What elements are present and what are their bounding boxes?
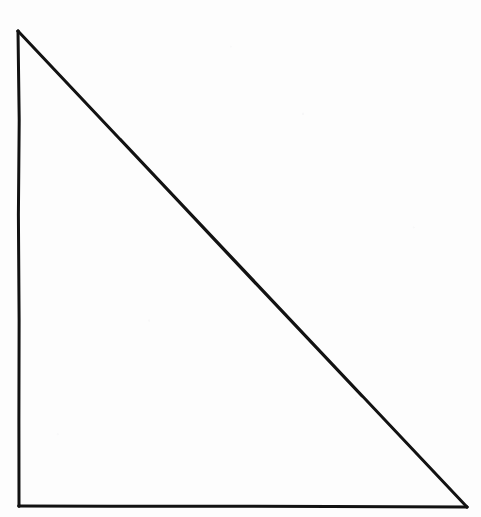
drawing-canvas: Right triangle outline right-triangle li…	[0, 0, 481, 517]
right-triangle-figure	[0, 0, 481, 517]
paper-background	[0, 0, 481, 517]
bottom-right-vertex-mark	[465, 505, 468, 508]
horizontal-leg-edge	[19, 506, 467, 507]
vertical-leg-edge	[18, 31, 19, 506]
right-angle-vertex-mark	[17, 504, 20, 507]
apex-vertex-mark	[16, 29, 19, 32]
